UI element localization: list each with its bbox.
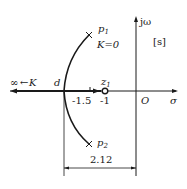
infinity-label: ∞ [10, 77, 18, 88]
breakaway-label: d [54, 77, 60, 88]
pole-p1-label: p1 [98, 23, 109, 36]
locus-arrow-right-icon [93, 89, 100, 94]
imag-axis-arrow-icon [134, 16, 138, 22]
pole-p2-icon [86, 141, 92, 147]
tick-label-minus-1-5: -1.5 [72, 95, 91, 106]
jomega-label: jω [139, 16, 151, 27]
locus-branch-upper [64, 35, 89, 91]
tick-label-minus-1: -1 [100, 95, 110, 106]
s-plane-label: [s] [153, 36, 166, 47]
pole-p1-icon [86, 32, 92, 38]
arrow-text: ← [20, 77, 28, 88]
sigma-label: σ [170, 95, 178, 106]
k-zero-label: K=0 [96, 39, 120, 50]
origin-label: O [141, 95, 149, 106]
locus-arrow-left-icon [10, 89, 17, 94]
root-locus-diagram: p1 K=0 p2 z1 d ∞ ← K -1.5 -1 O σ jω [s] … [0, 0, 187, 189]
zero-z1-icon [102, 88, 108, 94]
zero-z1-label: z1 [100, 76, 111, 89]
dimension-label: 2.12 [90, 154, 112, 165]
pole-p2-label: p2 [97, 137, 108, 150]
real-axis-arrow-icon [172, 89, 178, 93]
diagram-canvas: p1 K=0 p2 z1 d ∞ ← K -1.5 -1 O σ jω [s] … [0, 0, 187, 189]
gain-label: K [28, 77, 37, 88]
dim-arrow-right-icon [131, 167, 136, 170]
dim-arrow-left-icon [64, 167, 69, 170]
